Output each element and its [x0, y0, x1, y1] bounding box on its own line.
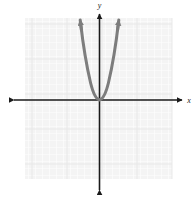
graph-figure: x y — [0, 0, 196, 200]
x-axis-label: x — [186, 96, 191, 105]
y-axis-label: y — [97, 1, 102, 10]
coordinate-plane-graph: x y — [0, 0, 196, 200]
